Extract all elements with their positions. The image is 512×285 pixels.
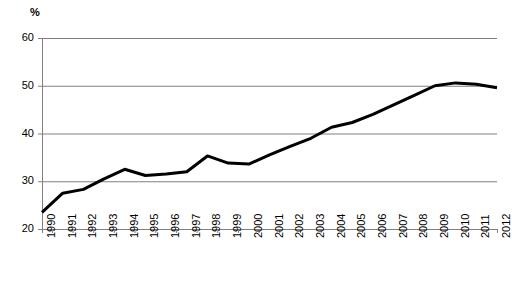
x-axis-tick-label: 2003 bbox=[315, 214, 326, 238]
x-axis-tick-label: 2001 bbox=[274, 214, 285, 238]
x-axis-tick-label: 1992 bbox=[87, 214, 98, 238]
x-axis-tick-label: 1991 bbox=[67, 214, 78, 238]
x-axis-tick-label: 2002 bbox=[294, 214, 305, 238]
x-axis-tick-label: 1997 bbox=[191, 214, 202, 238]
x-axis-tick-label: 1995 bbox=[149, 214, 160, 238]
x-axis-tick-label: 2011 bbox=[480, 214, 491, 238]
x-axis-tick-label: 1999 bbox=[232, 214, 243, 238]
x-axis-tick-label: 1993 bbox=[108, 214, 119, 238]
x-axis-tick-label: 2007 bbox=[398, 214, 409, 238]
x-axis-tick-label: 2000 bbox=[253, 214, 264, 238]
y-axis-tick-label: 20 bbox=[8, 223, 34, 234]
x-axis-tick-label: 2010 bbox=[460, 214, 471, 238]
x-axis-tick-label: 1998 bbox=[211, 214, 222, 238]
x-axis-tick-label: 2009 bbox=[439, 214, 450, 238]
x-axis-tick-label: 2012 bbox=[501, 214, 512, 238]
y-axis-tick-label: 60 bbox=[8, 32, 34, 43]
x-axis-tick-label: 2004 bbox=[336, 214, 347, 238]
x-axis-tick-label: 2005 bbox=[356, 214, 367, 238]
y-axis-tick-label: 30 bbox=[8, 175, 34, 186]
y-axis-tick-label: 50 bbox=[8, 80, 34, 91]
y-axis-tick-label: 40 bbox=[8, 128, 34, 139]
data-series-line bbox=[42, 83, 497, 212]
x-axis-tick-label: 2006 bbox=[377, 214, 388, 238]
x-axis-tick-label: 1996 bbox=[170, 214, 181, 238]
x-axis-tick-label: 1990 bbox=[46, 214, 57, 238]
x-axis-tick-label: 1994 bbox=[129, 214, 140, 238]
x-axis-tick-label: 2008 bbox=[418, 214, 429, 238]
